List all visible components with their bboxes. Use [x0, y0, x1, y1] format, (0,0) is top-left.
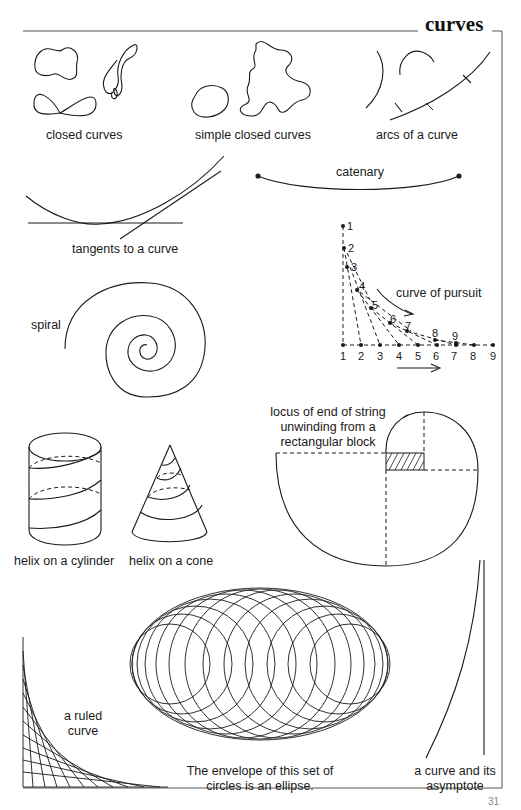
label-ruled-line1: a ruled: [58, 709, 108, 724]
label-asymptote: a curve and its asymptote: [410, 764, 500, 794]
simple-closed-curves-figure: [192, 42, 311, 118]
label-locus-line3: rectangular block: [268, 435, 388, 450]
target-num-7: 7: [451, 350, 457, 362]
pursuer-num-8: 8: [432, 327, 438, 339]
label-locus-line2: unwinding from a: [268, 420, 388, 435]
label-curve-of-pursuit: curve of pursuit: [396, 286, 481, 301]
pursuer-num-5: 5: [372, 299, 378, 311]
label-simple-closed-curves: simple closed curves: [195, 128, 311, 143]
target-num-8: 8: [470, 350, 476, 362]
pursuer-num-7: 7: [405, 320, 411, 332]
label-asymptote-line1: a curve and its: [410, 764, 500, 779]
label-envelope-line2: circles is an ellipse.: [185, 779, 335, 794]
label-ruled-curve: a ruled curve: [58, 709, 108, 739]
arc-tick-marks: [426, 103, 433, 110]
curves-diagram: [0, 0, 521, 810]
page-frame: [23, 31, 502, 788]
closed-curves-figure: [34, 45, 137, 116]
label-tangents: tangents to a curve: [72, 242, 178, 257]
target-num-4: 4: [396, 350, 402, 362]
label-catenary: catenary: [336, 165, 384, 180]
spiral-figure: [65, 283, 205, 397]
envelope-of-circles-figure: [130, 588, 390, 740]
target-num-3: 3: [377, 350, 383, 362]
pursuer-num-6: 6: [390, 313, 396, 325]
pursuer-num-2: 2: [348, 242, 354, 254]
page-title: curves: [425, 12, 483, 37]
label-ruled-line2: curve: [58, 724, 108, 739]
pursuer-num-9: 9: [452, 330, 458, 342]
target-num-2: 2: [358, 350, 364, 362]
helix-cylinder-figure: [29, 433, 101, 545]
label-locus: locus of end of string unwinding from a …: [268, 405, 388, 450]
label-helix-cylinder: helix on a cylinder: [14, 554, 114, 569]
label-locus-line1: locus of end of string: [268, 405, 388, 420]
tangents-figure: [26, 156, 224, 239]
arcs-of-a-curve-figure: [366, 51, 490, 120]
helix-cone-figure: [132, 445, 207, 542]
pursuer-num-1: 1: [347, 220, 353, 232]
label-asymptote-line2: asymptote: [410, 779, 500, 794]
target-num-1: 1: [340, 350, 346, 362]
target-num-6: 6: [433, 350, 439, 362]
pursuer-num-4: 4: [359, 280, 365, 292]
target-num-9: 9: [490, 350, 496, 362]
pursuer-num-3: 3: [351, 261, 357, 273]
target-num-5: 5: [415, 350, 421, 362]
label-envelope: The envelope of this set of circles is a…: [185, 764, 335, 794]
label-envelope-line1: The envelope of this set of: [185, 764, 335, 779]
label-spiral: spiral: [31, 318, 61, 333]
label-closed-curves: closed curves: [46, 128, 122, 143]
label-helix-cone: helix on a cone: [129, 554, 213, 569]
asymptote-figure: [426, 560, 484, 758]
label-arcs-of-a-curve: arcs of a curve: [376, 128, 458, 143]
page-number: 31: [488, 794, 499, 809]
